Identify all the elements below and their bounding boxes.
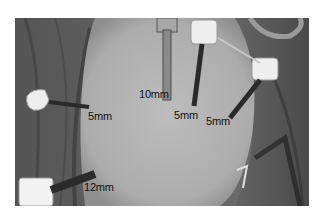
surgical-photo <box>15 18 309 206</box>
port-label-10mm: 10mm <box>139 89 169 100</box>
port-label-12mm: 12mm <box>84 182 114 193</box>
port-label-5mm-center: 5mm <box>174 110 198 121</box>
photo-illustration <box>15 18 309 206</box>
port-label-5mm-left: 5mm <box>88 111 112 122</box>
port-label-5mm-right: 5mm <box>206 116 230 127</box>
